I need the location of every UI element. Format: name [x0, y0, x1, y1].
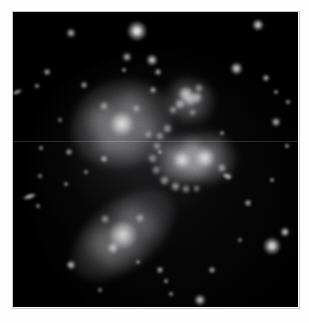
knot-bridge-5 [152, 166, 160, 174]
sky-field [13, 12, 298, 307]
star-upperleft-faint [57, 117, 62, 122]
star-mid-1 [100, 155, 108, 163]
star-upper-mid-4 [149, 86, 157, 94]
star-bottom-6 [208, 266, 216, 274]
knot-ur-6 [189, 109, 196, 116]
knot-sw-arm-1 [101, 215, 109, 223]
star-top-bright [127, 21, 147, 41]
star-upper-right-2 [262, 74, 270, 82]
galaxy-core-central-pair-east [196, 149, 214, 167]
knot-ur-4 [195, 84, 203, 92]
star-top-right [252, 19, 264, 31]
star-upper-right-1 [230, 62, 243, 75]
star-upper-mid-1 [122, 52, 131, 61]
star-bottom-5 [194, 294, 206, 306]
knot-bridge-8 [182, 185, 190, 193]
knot-ur-5 [169, 106, 177, 114]
knot-ul-arm-1 [100, 102, 108, 110]
horizontal-scan-artifact [13, 141, 298, 142]
star-right-5 [244, 199, 252, 207]
star-bottom-7 [97, 287, 102, 292]
star-left-1 [43, 68, 51, 76]
star-upper-mid-3 [154, 68, 162, 76]
knot-bridge-9 [193, 185, 200, 192]
knot-bridge-4 [148, 154, 157, 163]
galaxy-core-upper-left-spiral [111, 113, 133, 135]
star-left-3 [80, 81, 88, 89]
knot-ul-arm-2 [133, 105, 140, 112]
astronomical-image-figure: Monochrome deep-sky photograph showing a… [0, 0, 309, 323]
knot-east-tail-1 [218, 164, 226, 172]
knot-sw-arm-3 [136, 214, 144, 222]
star-upper-mid-2 [146, 54, 158, 66]
knot-bridge-7 [171, 182, 180, 191]
knot-bridge-6 [160, 176, 169, 185]
knot-ur-2 [191, 92, 202, 103]
knot-sw-arm-2 [108, 243, 118, 253]
star-lowerright-big [263, 237, 281, 255]
star-left-8 [35, 203, 40, 208]
knot-bridge-1 [163, 124, 172, 133]
star-center-faint [237, 237, 242, 242]
star-bottom-2 [156, 266, 164, 274]
star-right-1 [271, 117, 280, 126]
star-left-9 [83, 169, 88, 174]
star-left-5 [65, 148, 73, 156]
star-left-6 [37, 173, 42, 178]
knot-bridge-2 [156, 132, 164, 140]
knot-ul-arm-3 [145, 131, 152, 138]
star-bottom-8 [135, 259, 140, 264]
star-top-left [66, 28, 75, 37]
